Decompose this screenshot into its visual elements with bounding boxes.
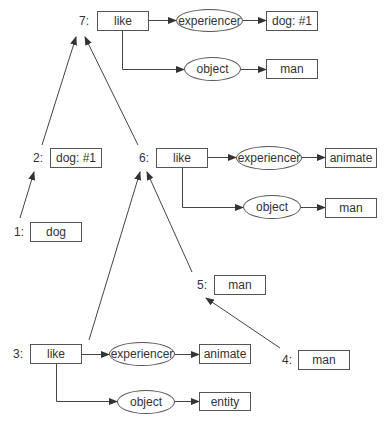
node-3-object-ellipse: object [117,390,175,414]
node-6-label: 6: [139,151,149,165]
node-7-experiencer-ellipse: experiencer [176,9,243,32]
edge-6-to-7 [85,37,138,145]
node-3-object-value-box: entity [199,392,251,411]
node-7-object-ellipse: object [184,57,241,81]
node-6-object-ellipse: object [243,195,301,219]
node-7-object-value-box: man [266,59,318,79]
node-3-experiencer-value-box: animate [199,344,251,364]
node-1-label: 1: [14,225,24,239]
edge-1-to-2 [20,172,34,218]
node-6-experiencer-ellipse: experiencer [236,146,302,170]
edge-5-to-6 [147,172,192,272]
node-4-label: 4: [282,353,292,367]
edge-4-to-5 [206,298,280,348]
node-4-concept-box: man [298,350,350,370]
edge-2-to-7 [42,37,76,145]
n6-link-object [183,167,244,208]
node-6-object-value-box: man [325,198,377,218]
node-3-concept-box: like [30,344,82,364]
node-7-label: 7: [79,14,89,28]
node-5-concept-box: man [214,275,266,295]
node-2-concept-box: dog: #1 [50,148,102,168]
node-5-label: 5: [197,278,207,292]
node-6-concept-box: like [156,148,208,168]
node-6-experiencer-value-box: animate [325,148,377,168]
node-3-experiencer-ellipse: experiencer [109,342,175,366]
node-7-concept-box: like [97,11,149,31]
node-2-label: 2: [33,151,43,165]
edge-3-to-6 [89,172,140,340]
node-3-label: 3: [13,347,23,361]
n7-link-object [123,30,185,70]
n3-link-object [57,363,118,402]
node-7-experiencer-value-box: dog: #1 [266,11,318,31]
node-1-concept-box: dog [30,222,82,242]
